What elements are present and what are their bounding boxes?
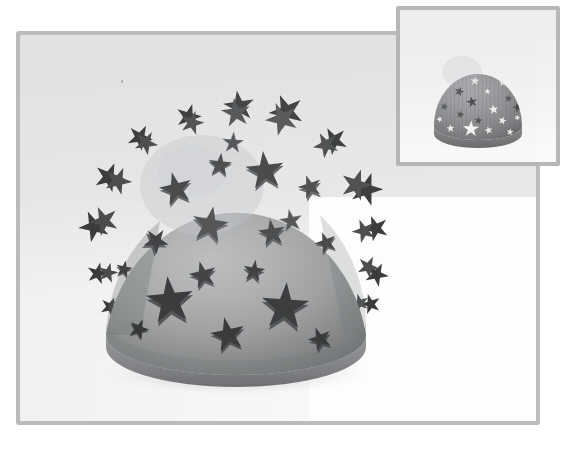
inset-dome-render	[400, 10, 556, 162]
render-artifact-speck	[121, 80, 123, 83]
render-stage	[0, 0, 585, 450]
inset-thumbnail-frame[interactable]	[396, 6, 560, 166]
dome-body	[106, 135, 366, 387]
inset-canvas	[400, 10, 556, 162]
